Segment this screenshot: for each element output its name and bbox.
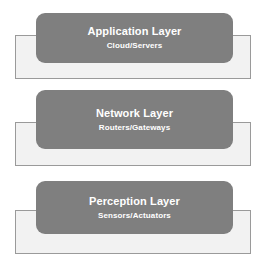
- layer-group-network: Network Layer Routers/Gateways: [0, 84, 270, 168]
- layer-card-application[interactable]: Application Layer Cloud/Servers: [36, 13, 233, 63]
- layer-title-network: Network Layer: [96, 107, 173, 120]
- layer-title-application: Application Layer: [88, 25, 182, 38]
- layer-card-network[interactable]: Network Layer Routers/Gateways: [36, 90, 233, 149]
- layer-card-perception[interactable]: Perception Layer Sensors/Actuators: [36, 181, 233, 234]
- layer-subtitle-perception: Sensors/Actuators: [98, 211, 171, 221]
- layer-group-application: Application Layer Cloud/Servers: [0, 0, 270, 84]
- layer-subtitle-application: Cloud/Servers: [107, 41, 163, 51]
- layer-subtitle-network: Routers/Gateways: [99, 123, 170, 133]
- layer-title-perception: Perception Layer: [89, 195, 180, 208]
- layer-group-perception: Perception Layer Sensors/Actuators: [0, 168, 270, 252]
